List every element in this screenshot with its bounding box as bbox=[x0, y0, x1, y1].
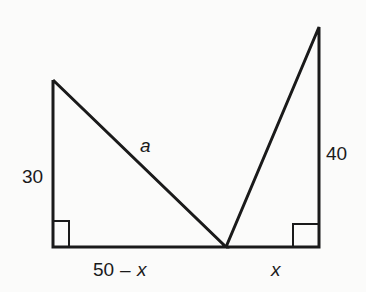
left-height-label: 30 bbox=[22, 166, 43, 187]
two-right-triangles-diagram: 30 a 40 50 – x x bbox=[0, 0, 366, 292]
right-height-label: 40 bbox=[326, 143, 347, 164]
left-triangle bbox=[53, 80, 226, 247]
left-base-minus: – bbox=[120, 259, 131, 280]
left-base-number: 50 bbox=[93, 259, 114, 280]
right-angle-marker-left bbox=[53, 221, 69, 247]
right-triangle bbox=[226, 27, 319, 247]
left-base-variable: x bbox=[136, 259, 148, 280]
right-base-label: x bbox=[270, 259, 282, 280]
right-angle-marker-right bbox=[293, 224, 319, 247]
hypotenuse-label: a bbox=[140, 135, 151, 156]
